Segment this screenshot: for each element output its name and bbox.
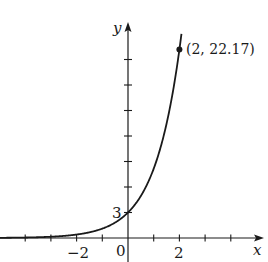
y-axis	[124, 22, 132, 262]
exponential-curve	[0, 34, 181, 238]
x-axis-label: x	[253, 241, 262, 259]
point-annotation: (2, 22.17)	[186, 41, 255, 57]
marked-point	[176, 47, 182, 53]
origin-label: 0	[116, 242, 126, 260]
exponential-graph: x y 0 −2 2 3 (2, 22.17)	[0, 0, 268, 262]
x-tick-label-2: 2	[174, 244, 184, 262]
y-intercept-label: 3	[112, 204, 122, 222]
x-tick-label-neg2: −2	[67, 244, 89, 262]
y-axis-label: y	[112, 19, 122, 37]
